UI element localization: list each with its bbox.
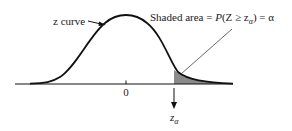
arrow-down-icon — [171, 102, 177, 109]
z-curve-label: z curve — [53, 15, 85, 27]
zero-label: 0 — [123, 86, 129, 98]
critical-value-label: zα — [169, 111, 179, 126]
z-curve-diagram: 0 zα z curve Shaded area = P(Z ≥ zα) = α — [0, 0, 292, 131]
shaded-area-caption: Shaded area = P(Z ≥ zα) = α — [150, 11, 274, 26]
shaded-area-pointer — [181, 29, 232, 74]
